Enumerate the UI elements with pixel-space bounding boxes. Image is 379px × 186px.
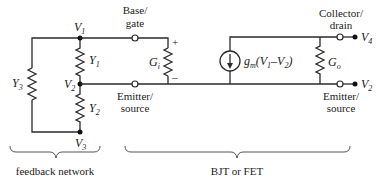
resistor-y3	[28, 68, 36, 100]
label-y3: Y3	[12, 76, 23, 92]
node-v4-dot	[353, 35, 358, 40]
resistor-y2	[76, 84, 84, 132]
label-collector-drain-2: drain	[330, 19, 353, 31]
label-emitter-source-left-2: source	[121, 102, 150, 114]
label-gi-plus: +	[172, 36, 178, 48]
label-y1: Y1	[89, 53, 100, 69]
wire-base-gi	[138, 38, 168, 48]
label-collector-drain-1: Collector/	[319, 7, 364, 19]
emitter-source-right-terminal	[337, 81, 343, 87]
resistor-y1	[76, 38, 84, 84]
node-v2-out-dot	[353, 82, 358, 87]
wire-top-output	[230, 37, 337, 51]
label-v3: V3	[75, 136, 86, 152]
device-model	[138, 37, 337, 84]
label-v2: V2	[64, 77, 75, 93]
label-feedback-network: feedback network	[16, 165, 95, 177]
wire-bottom-left	[32, 100, 80, 132]
label-emitter-source-right-1: Emitter/	[323, 90, 360, 102]
label-gi: Gi	[149, 55, 160, 71]
label-v2-out: V2	[361, 77, 372, 93]
label-v4: V4	[361, 30, 372, 46]
emitter-source-left-terminal	[132, 81, 138, 87]
label-emitter-source-left-1: Emitter/	[117, 90, 154, 102]
brace-feedback	[10, 146, 100, 158]
label-emitter-source-right-2: source	[327, 102, 356, 114]
label-base-gate-1: Base/	[123, 4, 148, 16]
label-bjt-or-fet: BJT or FET	[211, 165, 264, 177]
wire-top-left	[32, 38, 80, 68]
feedback-network	[28, 36, 84, 135]
label-y2: Y2	[89, 101, 100, 117]
base-gate-terminal	[132, 35, 138, 41]
label-base-gate-2: gate	[126, 17, 144, 29]
resistor-gi	[164, 48, 172, 76]
collector-drain-terminal	[337, 34, 343, 40]
node-v3-dot	[78, 130, 83, 135]
label-v1: V1	[74, 20, 85, 36]
label-gm-expression: gm(V1–V2)	[244, 54, 292, 70]
label-gi-minus: –	[171, 71, 178, 83]
circuit-diagram: V1 V2 V3 V4 V2 Y1 Y2 Y3 Gi + – Go gm(V1–…	[0, 0, 379, 186]
resistor-go	[316, 37, 324, 84]
label-go: Go	[328, 55, 341, 71]
brace-device	[125, 146, 350, 158]
